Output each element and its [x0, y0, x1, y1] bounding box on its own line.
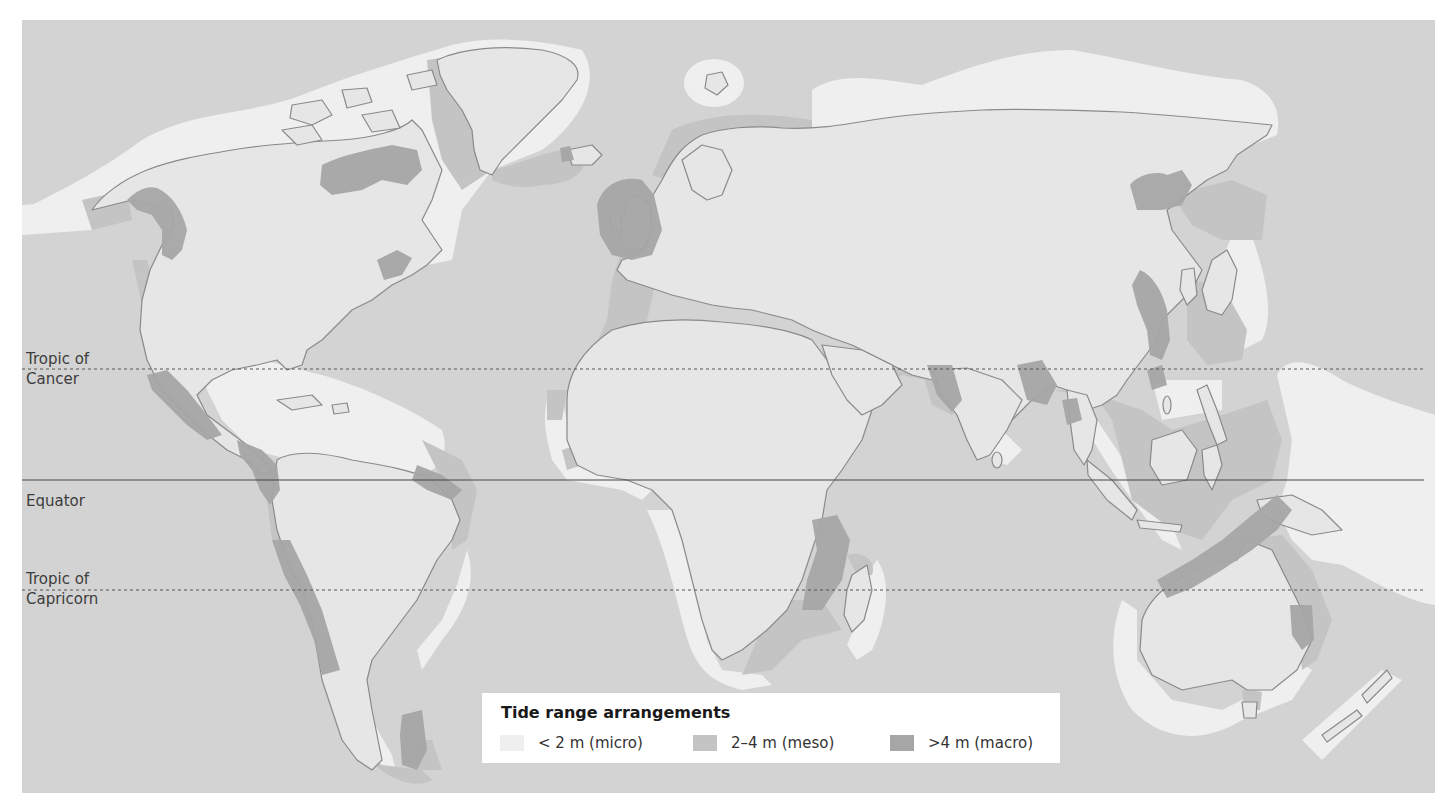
tropic-of-cancer-label-line2: Cancer	[26, 370, 89, 388]
world-tide-range-map: Tropic of Cancer Equator Tropic of Capri…	[22, 20, 1435, 793]
equator-label-text: Equator	[26, 492, 85, 510]
legend-title: Tide range arrangements	[501, 703, 730, 722]
legend-label-meso: 2–4 m (meso)	[731, 734, 834, 752]
tropic-of-capricorn-label-line2: Capricorn	[26, 590, 98, 608]
meso-swatch-icon	[693, 735, 717, 751]
south-america	[272, 453, 460, 770]
tropic-of-capricorn-label: Tropic of Capricorn	[26, 570, 98, 608]
legend-item-macro: >4 m (macro)	[890, 733, 1033, 753]
micro-swatch-icon	[500, 735, 524, 751]
macro-swatch-icon	[890, 735, 914, 751]
tropic-of-cancer-label-line1: Tropic of	[26, 350, 89, 368]
legend-label-macro: >4 m (macro)	[928, 734, 1033, 752]
map-legend: Tide range arrangements < 2 m (micro) 2–…	[482, 693, 1060, 763]
legend-item-micro: < 2 m (micro)	[500, 733, 643, 753]
tropic-of-capricorn-label-line1: Tropic of	[26, 570, 98, 588]
equator-label: Equator	[26, 492, 85, 510]
map-graphic	[22, 20, 1435, 793]
legend-item-meso: 2–4 m (meso)	[693, 733, 834, 753]
legend-label-micro: < 2 m (micro)	[538, 734, 643, 752]
tropic-of-cancer-label: Tropic of Cancer	[26, 350, 89, 388]
